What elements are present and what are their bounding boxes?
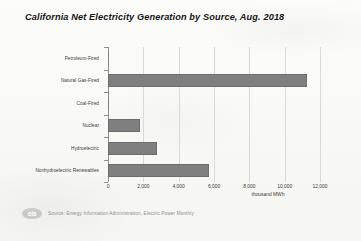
bar-row <box>108 47 320 70</box>
category-label-nuclear: Nuclear <box>0 115 104 138</box>
y-axis-category-labels: Petroleum-FiredNatural Gas-FiredCoal-Fir… <box>0 47 104 182</box>
plot-wrapper: Petroleum-FiredNatural Gas-FiredCoal-Fir… <box>0 0 361 241</box>
x-tick-label-6000: 6,000 <box>208 184 220 189</box>
bar-hydroelectric <box>108 142 157 155</box>
bar-natural-gas-fired <box>108 74 307 87</box>
bar-row <box>108 137 320 160</box>
chart-footer: eia Source: Energy Information Administr… <box>22 208 194 219</box>
eia-logo: eia <box>22 208 42 219</box>
bar-coal-fired <box>108 97 109 110</box>
bar-row <box>108 160 320 183</box>
category-label-natural-gas-fired: Natural Gas-Fired <box>0 70 104 93</box>
category-label-coal-fired: Coal-Fired <box>0 92 104 115</box>
x-tick-label-4000: 4,000 <box>173 184 185 189</box>
bar-nonhydroelectric-renewables <box>108 164 209 177</box>
bar-row <box>108 70 320 93</box>
bar-row <box>108 92 320 115</box>
x-tick-label-8000: 8,000 <box>243 184 255 189</box>
x-axis-unit-label: thousand MWh <box>252 192 285 197</box>
category-label-petroleum-fired: Petroleum-Fired <box>0 47 104 70</box>
source-attribution: Source: Energy Information Administratio… <box>48 211 194 216</box>
x-tick-label-0: 0 <box>107 184 110 189</box>
chart-container: California Net Electricity Generation by… <box>0 0 361 241</box>
bar-series <box>108 47 320 182</box>
y-tick <box>104 182 108 183</box>
y-tick <box>104 92 108 93</box>
bar-nuclear <box>108 119 140 132</box>
x-tick-label-10000: 10,000 <box>277 184 292 189</box>
y-tick <box>104 70 108 71</box>
y-tick <box>104 160 108 161</box>
gridline-12000 <box>320 47 321 182</box>
category-label-nonhydroelectric-renewables: Nonhydroelectric Renewables <box>0 160 104 183</box>
category-label-hydroelectric: Hydroelectric <box>0 137 104 160</box>
bar-row <box>108 115 320 138</box>
x-tick-label-12000: 12,000 <box>313 184 328 189</box>
bar-petroleum-fired <box>108 52 109 65</box>
y-tick <box>104 47 108 48</box>
x-tick-label-2000: 2,000 <box>137 184 149 189</box>
y-tick <box>104 137 108 138</box>
y-tick <box>104 115 108 116</box>
